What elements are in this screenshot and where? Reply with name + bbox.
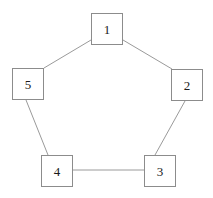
edge-2-3 — [155, 101, 185, 155]
edge-5-4 — [26, 100, 48, 155]
graph-node-3[interactable]: 3 — [144, 155, 176, 187]
graph-node-label: 1 — [104, 22, 111, 35]
graph-diagram-canvas: 1 2 3 4 5 — [0, 0, 213, 198]
graph-node-5[interactable]: 5 — [12, 68, 44, 100]
graph-node-label: 5 — [25, 77, 32, 90]
graph-node-4[interactable]: 4 — [41, 155, 73, 187]
graph-node-1[interactable]: 1 — [91, 13, 123, 45]
edge-5-1 — [44, 40, 91, 68]
graph-node-2[interactable]: 2 — [171, 69, 203, 101]
edge-1-2 — [123, 40, 172, 69]
graph-node-label: 2 — [184, 78, 191, 91]
graph-node-label: 4 — [54, 164, 61, 177]
graph-node-label: 3 — [157, 164, 164, 177]
